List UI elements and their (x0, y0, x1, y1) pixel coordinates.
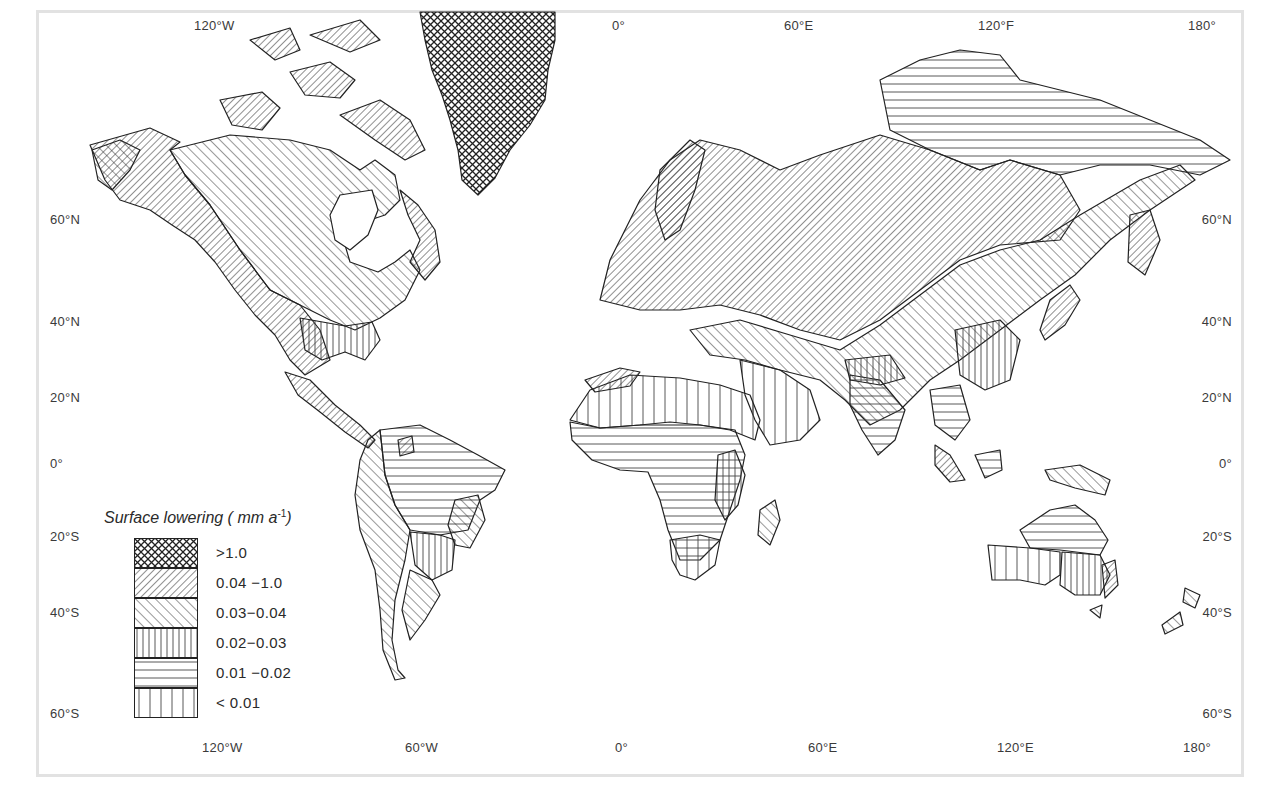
legend-item-0-01-0-02: 0.01 −0.02 (134, 658, 354, 688)
east-asia-coast (955, 320, 1020, 390)
lon-label-bottom-60w: 60°W (405, 740, 438, 755)
lon-label-bottom-60e: 60°E (808, 740, 838, 755)
australia-north (1020, 505, 1108, 555)
arctic-island-3 (340, 100, 425, 160)
madagascar (758, 500, 780, 545)
lon-label-top-120e: 120°F (978, 18, 1014, 33)
new-zealand-south (1162, 612, 1183, 634)
legend-title-close: ) (286, 509, 291, 526)
legend-item-0-03-0-04: 0.03−0.04 (134, 598, 354, 628)
lon-label-bottom-120e: 120°E (997, 740, 1034, 755)
lon-label-top-0: 0° (612, 18, 625, 33)
arctic-island-1 (220, 92, 280, 130)
guiana-spot (398, 436, 414, 456)
kamchatka (1128, 210, 1160, 275)
lat-label-left-40s: 40°S (50, 605, 80, 620)
south-africa (670, 535, 720, 580)
lat-label-right-0: 0° (1219, 456, 1232, 471)
crosshatch-swatch-icon (134, 538, 198, 568)
australia-west (988, 545, 1060, 585)
legend-item-gt-1: >1.0 (134, 538, 354, 568)
lat-label-left-40n: 40°N (50, 314, 80, 329)
legend-item-0-04-1-0: 0.04 −1.0 (134, 568, 354, 598)
new-guinea (1045, 465, 1110, 495)
lat-label-left-60s: 60°S (50, 706, 80, 721)
australia-coast (1102, 560, 1118, 598)
new-zealand-north (1183, 588, 1200, 608)
legend-label: 0.01 −0.02 (216, 664, 291, 681)
lon-label-top-60e: 60°E (784, 18, 814, 33)
legend-title: Surface lowering ( mm a-1) (104, 508, 292, 527)
southeast-asia (930, 385, 970, 440)
lon-label-bottom-120w: 120°W (202, 740, 243, 755)
greenland (420, 12, 555, 195)
legend-label: >1.0 (216, 544, 247, 561)
arctic-island-4 (250, 28, 300, 60)
legend-title-exponent: -1 (277, 508, 286, 519)
backward-diagonal-swatch-icon (134, 598, 198, 628)
south-america-south (402, 570, 440, 640)
lat-label-left-20n: 20°N (50, 390, 80, 405)
legend-title-text: Surface lowering ( mm a (104, 509, 277, 526)
lon-label-top-120w: 120°W (194, 18, 235, 33)
arctic-island-5 (310, 20, 380, 52)
central-america (285, 372, 375, 448)
lon-label-bottom-0: 0° (615, 740, 628, 755)
legend-label: < 0.01 (216, 694, 261, 711)
legend-label: 0.03−0.04 (216, 604, 287, 621)
lat-label-left-0: 0° (50, 456, 63, 471)
lat-label-right-60n: 60°N (1202, 212, 1232, 227)
tasmania (1090, 605, 1102, 618)
lat-label-right-20s: 20°S (1202, 529, 1232, 544)
arctic-island-2 (290, 62, 355, 98)
sumatra (935, 445, 965, 482)
lat-label-right-40n: 40°N (1202, 314, 1232, 329)
lon-label-top-180: 180° (1188, 18, 1216, 33)
horizontal-swatch-icon (134, 658, 198, 688)
legend-item-0-02-0-03: 0.02−0.03 (134, 628, 354, 658)
lat-label-right-60s: 60°S (1202, 706, 1232, 721)
legend-label: 0.04 −1.0 (216, 574, 283, 591)
vertical-dense-swatch-icon (134, 628, 198, 658)
legend-item-lt-0-01: < 0.01 (134, 688, 354, 718)
lat-label-right-20n: 20°N (1202, 390, 1232, 405)
forward-diagonal-swatch-icon (134, 568, 198, 598)
lat-label-left-20s: 20°S (50, 529, 80, 544)
lon-label-bottom-180: 180° (1183, 740, 1211, 755)
vertical-sparse-swatch-icon (134, 688, 198, 718)
legend-label: 0.02−0.03 (216, 634, 287, 651)
borneo (975, 450, 1002, 478)
lat-label-left-60n: 60°N (50, 212, 80, 227)
lat-label-right-40s: 40°S (1202, 605, 1232, 620)
